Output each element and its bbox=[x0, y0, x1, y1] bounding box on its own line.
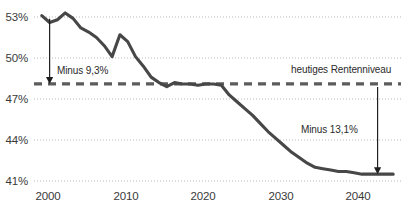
x-tick-label-2000: 2000 bbox=[25, 190, 71, 202]
annotation-label-left: Minus 9,3% bbox=[57, 65, 108, 76]
gridlines-group bbox=[34, 17, 401, 181]
annotation-label-right: Minus 13,1% bbox=[301, 124, 358, 135]
chart-plot-area bbox=[0, 0, 407, 216]
y-tick-label-50: 50% bbox=[0, 52, 28, 64]
y-tick-label-41: 41% bbox=[0, 175, 28, 187]
annotation-arrows bbox=[46, 19, 381, 175]
y-tick-label-53: 53% bbox=[0, 11, 28, 23]
x-tick-label-2030: 2030 bbox=[258, 190, 304, 202]
reference-line-label: heutiges Rentenniveau bbox=[291, 64, 391, 75]
x-tick-label-2010: 2010 bbox=[103, 190, 149, 202]
y-tick-label-47: 47% bbox=[0, 93, 28, 105]
chart-figure: 53% 50% 47% 44% 41% 2000 2010 2020 2030 … bbox=[0, 0, 407, 216]
data-series-line bbox=[42, 13, 393, 174]
x-tick-label-2020: 2020 bbox=[180, 190, 226, 202]
y-tick-label-44: 44% bbox=[0, 134, 28, 146]
x-tick-label-2040: 2040 bbox=[335, 190, 381, 202]
